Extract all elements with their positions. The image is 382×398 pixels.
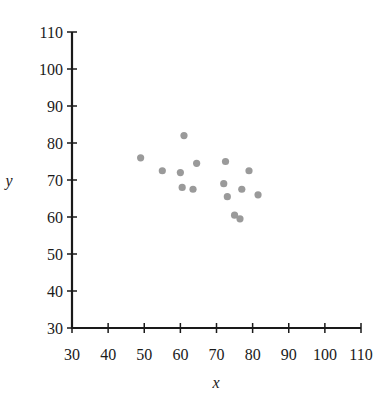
- x-tick-label: 100: [313, 346, 337, 363]
- y-tick-label: 90: [47, 98, 63, 115]
- y-tick-label: 30: [47, 320, 63, 337]
- data-points: [137, 132, 262, 222]
- x-tick-label: 110: [349, 346, 372, 363]
- data-point: [222, 158, 229, 165]
- data-point: [179, 184, 186, 191]
- data-point: [254, 191, 261, 198]
- y-tick-label: 70: [47, 172, 63, 189]
- data-point: [238, 186, 245, 193]
- y-tick-label: 50: [47, 246, 63, 263]
- x-tick-label: 30: [64, 346, 80, 363]
- y-tick-label: 60: [47, 209, 63, 226]
- y-tick-label: 100: [39, 61, 63, 78]
- data-point: [236, 215, 243, 222]
- x-axis-label: x: [211, 374, 219, 391]
- x-tick-label: 80: [245, 346, 261, 363]
- data-point: [159, 167, 166, 174]
- y-tick-label: 80: [47, 135, 63, 152]
- x-tick-label: 70: [209, 346, 225, 363]
- data-point: [137, 154, 144, 161]
- data-point: [245, 167, 252, 174]
- x-axis: 30405060708090100110: [64, 323, 373, 363]
- data-point: [180, 132, 187, 139]
- scatter-chart: 30405060708090100110 3040506070809010011…: [0, 0, 382, 398]
- data-point: [193, 160, 200, 167]
- data-point: [177, 169, 184, 176]
- x-tick-label: 50: [136, 346, 152, 363]
- y-tick-label: 110: [40, 24, 63, 41]
- y-axis-label: y: [3, 172, 13, 190]
- data-point: [224, 193, 231, 200]
- y-tick-label: 40: [47, 283, 63, 300]
- x-tick-label: 60: [172, 346, 188, 363]
- y-axis: 30405060708090100110: [39, 24, 77, 337]
- data-point: [189, 186, 196, 193]
- data-point: [220, 180, 227, 187]
- x-tick-label: 90: [281, 346, 297, 363]
- x-tick-label: 40: [100, 346, 116, 363]
